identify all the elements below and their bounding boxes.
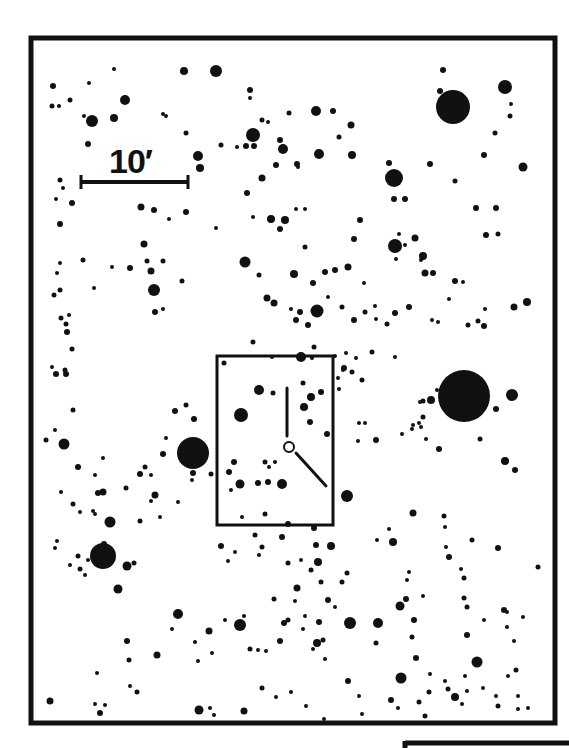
star [260,545,265,550]
star [294,585,301,592]
star [191,416,197,422]
star [190,470,196,476]
star [391,196,397,202]
star [241,708,248,715]
star [476,319,481,324]
star [411,617,417,623]
star [154,652,161,659]
star [386,160,392,166]
star [55,271,59,275]
star [214,226,218,230]
star [341,365,347,371]
star [206,628,213,635]
star [87,81,91,85]
star [234,408,248,422]
star [68,98,73,103]
star [481,323,487,329]
star [316,619,322,625]
star [337,135,342,140]
star [514,668,519,673]
star [210,651,214,655]
star [400,432,404,436]
star [470,538,475,543]
star [236,480,245,489]
star [319,580,324,585]
star [208,706,212,710]
target-marker-icon [284,442,294,452]
star [403,243,407,247]
star [103,703,107,707]
star [277,137,283,143]
star [494,694,498,698]
star [446,687,451,692]
star [59,316,64,321]
star [251,215,255,219]
star [196,659,200,663]
star [447,297,451,301]
star [112,67,116,71]
star [303,207,307,211]
star [272,597,277,602]
star [266,120,270,124]
star [92,286,96,290]
star [483,307,487,311]
star [58,178,63,183]
star [101,456,105,460]
star [124,486,129,491]
star [180,279,185,284]
star [405,578,409,582]
star [464,632,470,638]
star [296,165,300,169]
star [453,179,458,184]
star [176,500,180,504]
star [496,232,501,237]
star [301,627,305,631]
star [209,472,214,477]
star [313,639,321,647]
star [452,278,458,284]
star [519,163,528,172]
star [436,90,470,124]
star [286,561,291,566]
star [311,106,321,116]
star [274,695,278,699]
star [341,490,353,502]
star [172,408,178,414]
star [143,465,148,470]
star [100,489,107,496]
star [465,689,469,693]
star [78,510,82,514]
star [356,439,360,443]
star [303,614,307,618]
star [345,571,350,576]
star [90,543,116,569]
star [357,694,361,698]
star [344,617,356,629]
star [64,329,70,335]
star [167,217,171,221]
star [64,322,69,327]
star [195,706,204,715]
star [97,710,103,716]
star [196,164,204,172]
star [61,186,65,190]
star [244,190,250,196]
star [375,538,379,542]
star [388,697,394,703]
star [289,690,293,694]
star [91,509,95,513]
star [287,111,292,116]
star [403,596,409,602]
star [78,567,83,572]
star [388,239,402,253]
star [128,684,132,688]
star [248,647,253,652]
star [436,320,440,324]
star [309,568,314,573]
star [246,128,260,142]
star [67,313,71,317]
star [300,403,308,411]
star [301,381,306,386]
star [410,510,417,517]
star [442,514,447,519]
